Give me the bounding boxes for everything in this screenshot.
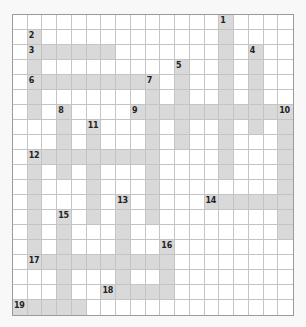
answer-cell[interactable] (87, 150, 102, 165)
answer-cell[interactable] (219, 90, 234, 105)
answer-cell[interactable] (175, 90, 190, 105)
answer-cell[interactable] (264, 105, 279, 120)
answer-cell[interactable] (57, 165, 72, 180)
answer-cell[interactable] (264, 195, 279, 210)
answer-cell[interactable] (57, 240, 72, 255)
answer-cell[interactable] (160, 255, 175, 270)
answer-cell[interactable] (249, 105, 264, 120)
answer-cell[interactable] (278, 195, 293, 210)
answer-cell[interactable] (278, 120, 293, 135)
answer-cell[interactable] (175, 135, 190, 150)
answer-cell[interactable] (101, 150, 116, 165)
answer-cell[interactable] (175, 120, 190, 135)
answer-cell[interactable] (249, 120, 264, 135)
answer-cell[interactable] (28, 165, 43, 180)
answer-cell[interactable] (219, 45, 234, 60)
answer-cell[interactable] (72, 75, 87, 90)
answer-cell[interactable] (87, 135, 102, 150)
answer-cell[interactable] (160, 270, 175, 285)
answer-cell[interactable] (146, 165, 161, 180)
answer-cell[interactable] (234, 195, 249, 210)
answer-cell[interactable] (42, 255, 57, 270)
answer-cell[interactable] (28, 240, 43, 255)
answer-cell[interactable] (146, 180, 161, 195)
answer-cell[interactable] (249, 195, 264, 210)
answer-cell[interactable]: 9 (131, 105, 146, 120)
answer-cell[interactable] (116, 270, 131, 285)
answer-cell[interactable]: 3 (28, 45, 43, 60)
answer-cell[interactable] (131, 150, 146, 165)
answer-cell[interactable] (57, 300, 72, 315)
answer-cell[interactable] (234, 105, 249, 120)
answer-cell[interactable]: 2 (28, 30, 43, 45)
answer-cell[interactable] (278, 135, 293, 150)
answer-cell[interactable] (87, 45, 102, 60)
answer-cell[interactable] (219, 75, 234, 90)
answer-cell[interactable] (146, 150, 161, 165)
answer-cell[interactable] (278, 225, 293, 240)
answer-cell[interactable] (42, 75, 57, 90)
answer-cell[interactable] (101, 75, 116, 90)
answer-cell[interactable] (87, 165, 102, 180)
answer-cell[interactable] (28, 90, 43, 105)
answer-cell[interactable] (146, 135, 161, 150)
answer-cell[interactable] (28, 225, 43, 240)
answer-cell[interactable] (219, 165, 234, 180)
answer-cell[interactable] (146, 120, 161, 135)
answer-cell[interactable] (146, 210, 161, 225)
answer-cell[interactable]: 8 (57, 105, 72, 120)
answer-cell[interactable] (175, 105, 190, 120)
answer-cell[interactable] (57, 285, 72, 300)
answer-cell[interactable] (57, 150, 72, 165)
answer-cell[interactable] (116, 150, 131, 165)
answer-cell[interactable] (160, 285, 175, 300)
answer-cell[interactable] (131, 255, 146, 270)
answer-cell[interactable] (42, 300, 57, 315)
answer-cell[interactable] (116, 225, 131, 240)
answer-cell[interactable] (57, 75, 72, 90)
answer-cell[interactable] (205, 105, 220, 120)
answer-cell[interactable] (219, 30, 234, 45)
answer-cell[interactable]: 1 (219, 15, 234, 30)
answer-cell[interactable]: 18 (101, 285, 116, 300)
answer-cell[interactable]: 5 (175, 60, 190, 75)
answer-cell[interactable] (42, 150, 57, 165)
answer-cell[interactable]: 16 (160, 240, 175, 255)
answer-cell[interactable] (28, 180, 43, 195)
answer-cell[interactable] (57, 225, 72, 240)
answer-cell[interactable]: 4 (249, 45, 264, 60)
answer-cell[interactable] (28, 195, 43, 210)
answer-cell[interactable]: 10 (278, 105, 293, 120)
answer-cell[interactable] (101, 45, 116, 60)
answer-cell[interactable] (249, 60, 264, 75)
answer-cell[interactable] (57, 135, 72, 150)
answer-cell[interactable] (87, 195, 102, 210)
answer-cell[interactable] (278, 180, 293, 195)
answer-cell[interactable] (219, 120, 234, 135)
answer-cell[interactable] (72, 300, 87, 315)
answer-cell[interactable] (87, 255, 102, 270)
answer-cell[interactable] (72, 255, 87, 270)
answer-cell[interactable] (116, 240, 131, 255)
answer-cell[interactable] (249, 90, 264, 105)
answer-cell[interactable] (146, 90, 161, 105)
answer-cell[interactable] (219, 105, 234, 120)
answer-cell[interactable] (219, 60, 234, 75)
answer-cell[interactable] (87, 180, 102, 195)
answer-cell[interactable]: 19 (13, 300, 28, 315)
answer-cell[interactable]: 17 (28, 255, 43, 270)
answer-cell[interactable]: 14 (205, 195, 220, 210)
answer-cell[interactable] (57, 45, 72, 60)
answer-cell[interactable] (101, 255, 116, 270)
answer-cell[interactable] (160, 105, 175, 120)
answer-cell[interactable] (278, 210, 293, 225)
answer-cell[interactable]: 15 (57, 210, 72, 225)
answer-cell[interactable]: 11 (87, 120, 102, 135)
answer-cell[interactable]: 7 (146, 75, 161, 90)
answer-cell[interactable] (249, 75, 264, 90)
answer-cell[interactable] (28, 300, 43, 315)
answer-cell[interactable] (175, 75, 190, 90)
answer-cell[interactable] (28, 210, 43, 225)
answer-cell[interactable]: 6 (28, 75, 43, 90)
answer-cell[interactable] (219, 150, 234, 165)
